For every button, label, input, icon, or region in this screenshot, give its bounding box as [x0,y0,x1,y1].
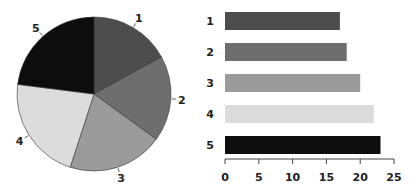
bar-category-label: 4 [206,108,214,121]
bar-5 [225,136,381,154]
x-tick-label: 15 [319,171,334,184]
bar-chart: 123450510152025 [200,0,418,194]
pie-label: 5 [32,22,40,35]
x-tick-label: 25 [386,171,401,184]
chart-figure: 12345 123450510152025 [0,0,418,194]
x-tick-label: 10 [285,171,301,184]
bar-category-label: 5 [206,139,214,152]
pie-label: 2 [178,94,186,107]
bar-3 [225,74,360,92]
pie-label: 1 [135,12,143,25]
x-tick-label: 0 [221,171,229,184]
x-tick-label: 5 [255,171,263,184]
bar-category-label: 2 [206,46,214,59]
pie-leader-line [40,32,43,35]
bar-4 [225,105,374,123]
pie-chart: 12345 [0,0,200,194]
bar-category-label: 3 [206,77,214,90]
pie-leader-line [25,136,28,138]
pie-label: 4 [16,135,24,148]
pie-label: 3 [117,172,125,185]
bar-1 [225,12,340,30]
bar-2 [225,43,347,61]
bar-category-label: 1 [206,15,214,28]
pie-slice-5 [18,17,94,94]
x-tick-label: 20 [353,171,369,184]
